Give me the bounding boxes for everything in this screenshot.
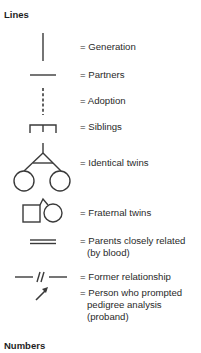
label-line-1: = Parents closely related (80, 235, 185, 246)
siblings-bracket-icon (30, 125, 56, 133)
label-partners: = Partners (80, 69, 125, 81)
label-line-1: = Person who prompted (80, 287, 182, 298)
label-generation: = Generation (80, 41, 136, 53)
label-siblings: = Siblings (80, 121, 122, 133)
broken-line-icon (15, 272, 67, 282)
label-parents-closely-related: = Parents closely related (by blood) (80, 235, 185, 259)
label-line-3: (proband) (80, 311, 182, 323)
fraternal-twins-icon (23, 199, 62, 222)
label-line-2: pedigree analysis (80, 299, 182, 311)
section-title-numbers: Numbers (4, 340, 45, 351)
label-fraternal-twins: = Fraternal twins (80, 207, 151, 219)
double-line-icon (30, 240, 56, 244)
label-proband: = Person who prompted pedigree analysis … (80, 287, 182, 323)
label-identical-twins: = Identical twins (80, 157, 149, 169)
label-former-relationship: = Former relationship (80, 271, 171, 283)
proband-arrow-icon (36, 287, 48, 300)
label-line-2: (by blood) (80, 247, 185, 259)
identical-twins-icon (14, 143, 70, 191)
label-adoption: = Adoption (80, 95, 126, 107)
